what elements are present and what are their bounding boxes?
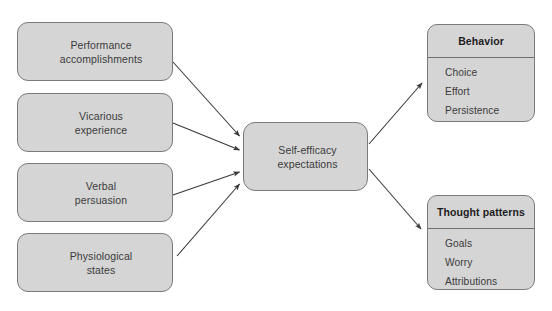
arrow-vicarious-to-self-efficacy [173, 123, 240, 150]
node-self-efficacy-expectations-label: Self-efficacy expectations [277, 143, 337, 171]
thought-patterns-item-list: Goals Worry Attributions [428, 229, 534, 288]
arrow-self-efficacy-to-behavior [369, 83, 422, 144]
arrow-self-efficacy-to-thought-patterns [369, 169, 421, 229]
node-thought-patterns: Thought patterns Goals Worry Attribution… [427, 195, 535, 290]
arrow-verbal-to-self-efficacy [173, 172, 240, 195]
thought-patterns-item: Attributions [445, 275, 534, 288]
behavior-item-list: Choice Effort Persistence [428, 58, 534, 117]
node-vicarious-experience-label: Vicarious experience [75, 109, 127, 137]
node-verbal-persuasion-label: Verbal persuasion [75, 179, 127, 207]
node-physiological-states-label: Physiological states [70, 249, 133, 277]
behavior-title: Behavior [458, 35, 504, 47]
node-performance-accomplishments-label: Performance accomplishments [60, 38, 143, 66]
behavior-item: Choice [445, 66, 534, 79]
behavior-item: Effort [445, 85, 534, 98]
thought-patterns-item: Goals [445, 237, 534, 250]
arrow-physiological-to-self-efficacy [177, 184, 240, 256]
node-verbal-persuasion: Verbal persuasion [17, 163, 173, 222]
node-performance-accomplishments: Performance accomplishments [17, 22, 173, 81]
behavior-header: Behavior [428, 25, 534, 58]
arrow-performance-to-self-efficacy [173, 62, 240, 136]
thought-patterns-item: Worry [445, 256, 534, 269]
self-efficacy-diagram: Performance accomplishments Vicarious ex… [0, 0, 552, 311]
node-vicarious-experience: Vicarious experience [17, 93, 173, 152]
node-physiological-states: Physiological states [17, 233, 173, 292]
thought-patterns-title: Thought patterns [437, 206, 525, 218]
node-behavior: Behavior Choice Effort Persistence [427, 24, 535, 122]
behavior-item: Persistence [445, 104, 534, 117]
node-self-efficacy-expectations: Self-efficacy expectations [243, 122, 368, 191]
thought-patterns-header: Thought patterns [428, 196, 534, 229]
